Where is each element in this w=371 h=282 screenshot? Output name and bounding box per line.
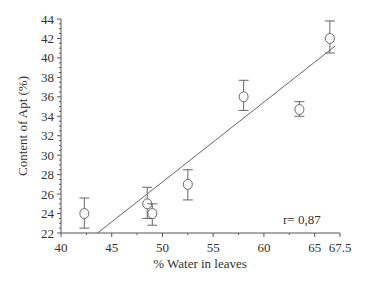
scatter-chart: 222426283032343638404244 40455055606567.… [0,0,371,282]
y-tick-label: 26 [41,187,55,202]
y-tick-label: 34 [41,109,55,124]
x-tick-label: 65 [308,240,321,255]
x-axis: 40455055606567.5 [55,233,352,255]
y-tick-label: 24 [41,206,55,221]
fit-line [98,46,335,233]
x-tick-label: 67.5 [329,240,352,255]
y-axis: 222426283032343638404244 [41,12,61,241]
circle-marker [239,92,248,102]
y-tick-label: 40 [41,50,54,65]
data-point [239,80,249,110]
y-tick-label: 44 [41,12,55,27]
y-tick-label: 32 [41,128,54,143]
circle-marker [295,104,304,114]
circle-marker [325,33,334,43]
data-point [183,170,193,200]
x-axis-title: % Water in leaves [153,256,247,271]
data-point [325,21,335,53]
y-axis-title: Content of Apt (%) [15,76,30,176]
x-tick-label: 60 [257,240,270,255]
x-tick-label: 40 [55,240,68,255]
data-point [294,102,304,117]
circle-marker [148,209,157,219]
data-points [79,21,335,228]
x-tick-label: 50 [156,240,169,255]
x-tick-label: 45 [105,240,118,255]
circle-marker [80,209,89,219]
correlation-annotation: r= 0,87 [283,212,321,227]
regression-line [98,46,335,233]
x-tick-label: 55 [207,240,220,255]
data-point [79,198,89,228]
y-tick-label: 42 [41,31,54,46]
data-point [147,204,157,225]
circle-marker [183,179,192,189]
y-tick-label: 28 [41,167,54,182]
data-point [142,187,152,218]
y-tick-label: 36 [41,89,55,104]
y-tick-label: 38 [41,70,54,85]
y-tick-label: 30 [41,148,54,163]
y-tick-label: 22 [41,226,54,241]
